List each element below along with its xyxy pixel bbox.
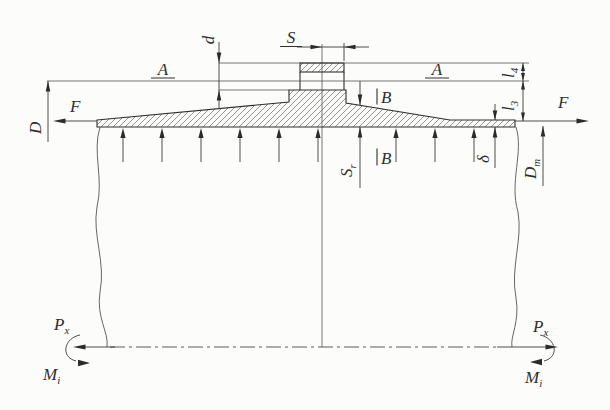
dimension-s [297,43,369,61]
label-p-right: Px [532,317,548,338]
label-d-dim: d [199,35,218,44]
dimension-dm [541,126,546,186]
label-m-right: Mi [524,368,542,389]
label-f-left: F [69,97,81,116]
nozzle-cap-section [300,63,344,72]
pressure-arrow [432,128,437,162]
force-px-right [497,345,558,350]
force-px-left [73,345,115,350]
label-l4: l4 [499,67,520,78]
label-a-right: A [431,60,443,79]
pressure-arrow [315,128,320,162]
label-delta: δ [474,154,493,163]
shell-break-line-left [96,127,107,347]
force-f-right [515,119,589,124]
pressure-arrow [393,128,398,162]
pressure-arrow [120,128,125,162]
label-f-right: F [557,93,569,112]
pressure-arrow [159,128,164,162]
label-d-mean: Dm [521,159,542,180]
moment-mi-right [530,335,554,365]
dimension-d-outer [46,81,51,142]
pressure-arrow [276,128,281,162]
force-f-left [53,119,97,124]
label-s-dim: S [287,28,296,47]
dimension-delta [493,104,498,168]
label-a-left: A [157,60,169,79]
pressure-arrow [237,128,242,162]
dimension-sr [358,81,363,188]
labels-layer: SdAABBSrl4l3δDmDFFPxPxMiMi [26,28,569,389]
label-b-top: B [381,88,392,107]
technical-diagram-page: SdAABBSrl4l3δDmDFFPxPxMiMi [0,0,610,410]
dimension-d [217,42,222,108]
label-d-outer: D [26,121,45,135]
shell-break-line-right [512,127,519,347]
label-b-bottom: B [381,149,392,168]
label-m-left: Mi [42,365,60,386]
flat-head-section [97,90,515,127]
label-l3: l3 [499,100,520,111]
flat-head-diagram: SdAABBSrl4l3δDmDFFPxPxMiMi [0,0,610,410]
pressure-arrows [120,128,476,162]
pressure-arrow [198,128,203,162]
label-p-left: Px [53,315,69,336]
label-s-r: Sr [337,164,358,178]
moment-mi-left [66,335,90,366]
dimension-l4-l3 [521,63,525,121]
